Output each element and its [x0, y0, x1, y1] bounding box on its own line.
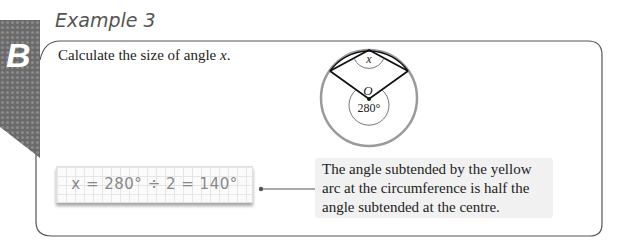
explanation-text: The angle subtended by the yellow arc at… — [322, 160, 552, 217]
explanation-callout: The angle subtended by the yellow arc at… — [315, 158, 553, 218]
